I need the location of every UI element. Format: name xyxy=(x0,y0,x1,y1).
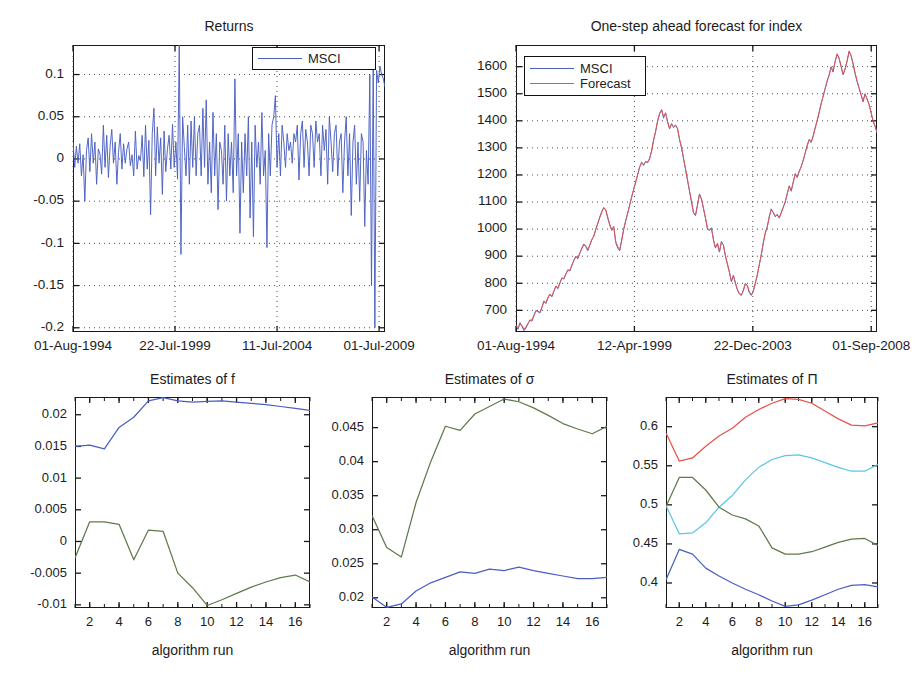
ytick-label-forecast-4: 1200 xyxy=(477,167,507,180)
xtick-label-estimates-sigma-7: 16 xyxy=(572,615,612,628)
ytick-label-returns-2: 0 xyxy=(56,151,64,164)
ytick-label-estimates-sigma-4: 0.025 xyxy=(331,556,364,569)
ytick-label-estimates-sigma-1: 0.04 xyxy=(339,454,364,467)
legend-label-Forecast: Forecast xyxy=(580,77,631,90)
legend-swatch-Forecast xyxy=(530,83,574,84)
xtick-label-returns-1: 22-Jul-1999 xyxy=(119,339,231,352)
plot-area-estimates-pi xyxy=(666,397,878,608)
ytick-label-estimates-f-4: 0 xyxy=(60,534,67,547)
ytick-label-returns-6: -0.2 xyxy=(41,320,64,333)
plot-area-estimates-f xyxy=(75,397,310,608)
ytick-label-estimates-f-2: 0.01 xyxy=(42,471,67,484)
xtick-label-estimates-pi-7: 16 xyxy=(845,615,885,628)
ytick-label-estimates-f-0: 0.02 xyxy=(42,407,67,420)
legend-returns: MSCI xyxy=(252,47,376,70)
xaxis-label-estimates-sigma: algorithm run xyxy=(372,643,607,657)
ytick-label-forecast-0: 1600 xyxy=(477,59,507,72)
legend-label-MSCI: MSCI xyxy=(308,52,341,65)
xtick-label-returns-3: 01-Jul-2009 xyxy=(323,339,435,352)
ytick-label-estimates-f-5: -0.005 xyxy=(30,566,67,579)
legend-entry-MSCI: MSCI xyxy=(525,61,645,76)
ytick-label-returns-1: 0.05 xyxy=(38,109,64,122)
panel-title-estimates-f: Estimates of f xyxy=(75,372,310,386)
ytick-label-estimates-pi-4: 0.4 xyxy=(640,575,658,588)
ytick-label-returns-4: -0.1 xyxy=(41,236,64,249)
legend-swatch-MSCI xyxy=(530,68,574,69)
xtick-label-returns-0: 01-Aug-1994 xyxy=(17,339,129,352)
xtick-label-forecast-0: 01-Aug-1994 xyxy=(460,339,572,352)
ytick-label-estimates-f-6: -0.01 xyxy=(37,597,67,610)
ytick-label-estimates-sigma-2: 0.035 xyxy=(331,488,364,501)
xtick-label-forecast-1: 12-Apr-1999 xyxy=(578,339,690,352)
xtick-label-returns-2: 11-Jul-2004 xyxy=(221,339,333,352)
ytick-label-estimates-f-3: 0.005 xyxy=(34,502,67,515)
panel-title-returns: Returns xyxy=(73,19,385,33)
xtick-label-forecast-2: 22-Dec-2003 xyxy=(697,339,809,352)
legend-entry-MSCI: MSCI xyxy=(253,51,375,66)
ytick-label-forecast-3: 1300 xyxy=(477,140,507,153)
ytick-label-returns-3: -0.05 xyxy=(33,193,64,206)
legend-forecast: MSCIForecast xyxy=(524,56,646,96)
ytick-label-forecast-1: 1500 xyxy=(477,86,507,99)
ytick-label-estimates-pi-2: 0.5 xyxy=(640,497,658,510)
xtick-label-estimates-f-7: 16 xyxy=(275,615,315,628)
ytick-label-estimates-pi-3: 0.45 xyxy=(633,536,658,549)
legend-entry-Forecast: Forecast xyxy=(525,76,645,91)
plot-area-estimates-sigma xyxy=(372,397,607,608)
plot-area-returns xyxy=(73,45,385,332)
ytick-label-forecast-9: 700 xyxy=(484,303,507,316)
xaxis-label-estimates-pi: algorithm run xyxy=(666,643,878,657)
ytick-label-estimates-sigma-5: 0.02 xyxy=(339,590,364,603)
ytick-label-estimates-pi-0: 0.6 xyxy=(640,419,658,432)
ytick-label-returns-0: 0.1 xyxy=(45,67,64,80)
xtick-label-forecast-3: 01-Sep-2008 xyxy=(815,339,915,352)
panel-title-estimates-sigma: Estimates of σ xyxy=(372,372,607,386)
legend-label-MSCI: MSCI xyxy=(580,62,613,75)
ytick-label-forecast-6: 1000 xyxy=(477,221,507,234)
ytick-label-estimates-f-1: 0.015 xyxy=(34,439,67,452)
ytick-label-forecast-7: 900 xyxy=(484,248,507,261)
legend-swatch-MSCI xyxy=(258,58,302,59)
ytick-label-forecast-5: 1100 xyxy=(478,194,507,207)
ytick-label-estimates-sigma-3: 0.03 xyxy=(339,522,364,535)
ytick-label-estimates-pi-1: 0.55 xyxy=(633,458,658,471)
ytick-label-forecast-2: 1400 xyxy=(477,113,507,126)
xaxis-label-estimates-f: algorithm run xyxy=(75,643,310,657)
ytick-label-estimates-sigma-0: 0.045 xyxy=(331,420,364,433)
panel-title-forecast: One-step ahead forecast for index xyxy=(516,19,877,33)
ytick-label-returns-5: -0.15 xyxy=(33,278,64,291)
ytick-label-forecast-8: 800 xyxy=(484,276,507,289)
panel-title-estimates-pi: Estimates of Π xyxy=(666,372,878,386)
